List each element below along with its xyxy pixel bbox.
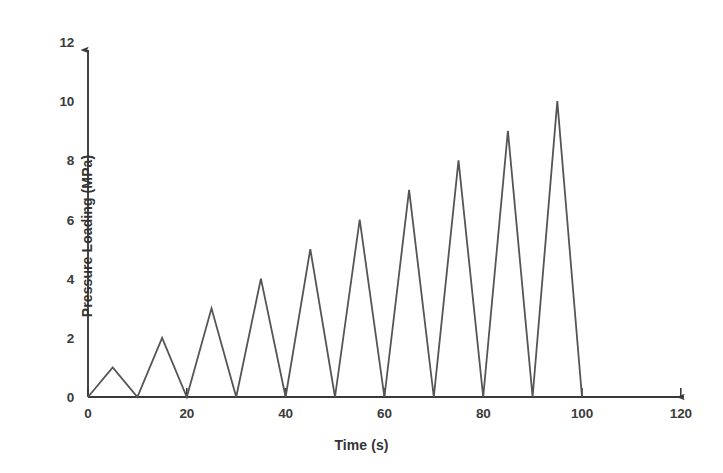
y-tick-label: 2 — [40, 330, 74, 345]
y-tick-label: 10 — [40, 94, 74, 109]
y-tick-label: 0 — [40, 390, 74, 405]
axes — [88, 50, 684, 397]
y-tick-label: 8 — [40, 153, 74, 168]
x-tick-label: 20 — [179, 406, 194, 421]
x-tick-label: 60 — [377, 406, 392, 421]
chart-container: 024681012 020406080100120 Pressure Loadi… — [0, 0, 723, 473]
x-tick-label: 0 — [84, 406, 91, 421]
x-tick-label: 40 — [278, 406, 293, 421]
chart-plot-area — [0, 0, 723, 473]
x-axis-title: Time (s) — [0, 437, 723, 453]
y-tick-label: 4 — [40, 271, 74, 286]
x-tick-label: 100 — [571, 406, 593, 421]
pressure-loading-line — [88, 101, 582, 397]
x-tick-label: 120 — [670, 406, 692, 421]
x-tick-label: 80 — [476, 406, 491, 421]
data-series-group — [88, 101, 582, 397]
y-tick-label: 12 — [40, 35, 74, 50]
y-axis-title: Pressure Loading (MPa) — [79, 155, 95, 317]
y-tick-label: 6 — [40, 212, 74, 227]
